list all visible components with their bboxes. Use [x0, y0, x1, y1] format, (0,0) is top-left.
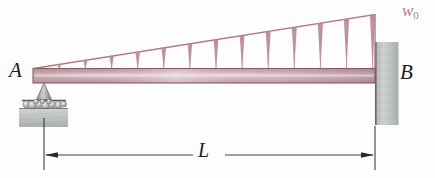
label-support-A: A: [9, 60, 22, 81]
label-load-intensity-base: w: [402, 1, 413, 20]
label-span-L: L: [198, 140, 209, 160]
support-wall-right: [376, 42, 399, 125]
label-load-intensity-w0: w0: [402, 2, 419, 21]
beam-diagram-figure: A B L w0: [0, 0, 435, 178]
dimension-arrow-right: [361, 152, 374, 158]
beam-member-AB: [33, 69, 375, 84]
dimension-arrow-left: [45, 152, 58, 158]
diagram-canvas: [0, 0, 435, 178]
label-load-intensity-subscript: 0: [413, 9, 419, 21]
label-support-B: B: [400, 62, 413, 83]
load-arrow-stems: [59, 15, 372, 68]
support-wedge: [37, 83, 52, 100]
dimension-span-L: [44, 118, 375, 170]
